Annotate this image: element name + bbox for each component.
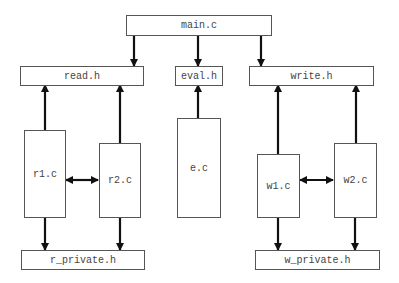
node-label: eval.h [181,71,217,82]
node-label: read.h [64,71,100,82]
node-label: w2.c [343,175,367,186]
node-w1-c: w1.c [257,154,300,218]
node-w-private-h: w_private.h [255,250,380,270]
node-label: write.h [290,71,332,82]
node-label: e.c [190,163,208,174]
node-label: r2.c [108,175,132,186]
node-label: w1.c [266,181,290,192]
node-label: main.c [181,20,217,31]
node-r2-c: r2.c [99,143,141,218]
node-label: r1.c [33,169,57,180]
node-r1-c: r1.c [24,130,66,218]
node-eval-h: eval.h [175,66,223,86]
node-label: r_private.h [50,255,116,266]
node-main-c: main.c [126,15,272,36]
node-w2-c: w2.c [334,143,377,218]
node-write-h: write.h [249,66,374,86]
node-r-private-h: r_private.h [21,250,145,270]
node-label: w_private.h [284,255,350,266]
node-read-h: read.h [20,66,144,86]
node-e-c: e.c [177,118,221,218]
dependency-diagram: main.c read.h eval.h write.h r1.c r2.c e… [0,0,399,283]
